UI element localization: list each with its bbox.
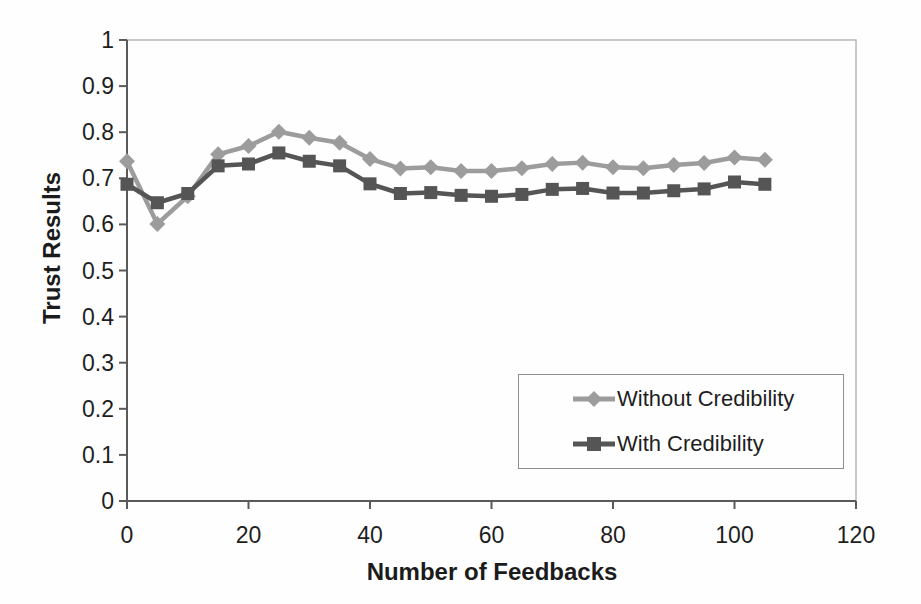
series-marker-with-credibility (758, 178, 771, 191)
legend-label-without-credibility: Without Credibility (617, 386, 794, 412)
series-group (119, 124, 773, 232)
series-marker-without-credibility (423, 159, 439, 175)
x-tick-label: 20 (236, 522, 262, 548)
x-tick-label: 60 (479, 522, 505, 548)
series-marker-without-credibility (727, 150, 743, 166)
series-marker-with-credibility (121, 178, 134, 191)
series-marker-without-credibility (484, 163, 500, 179)
legend-label-with-credibility: With Credibility (617, 431, 764, 457)
x-axis-title: Number of Feedbacks (292, 558, 692, 586)
y-tick-label: 0.4 (82, 304, 114, 330)
series-marker-with-credibility (303, 155, 316, 168)
tick-labels-group: 00.10.20.30.40.50.60.70.80.9102040608010… (82, 27, 875, 548)
series-marker-with-credibility (546, 183, 559, 196)
series-marker-without-credibility (453, 163, 469, 179)
series-marker-without-credibility (271, 124, 287, 140)
y-tick-label: 0.8 (82, 119, 114, 145)
y-tick-label: 0.2 (82, 396, 114, 422)
series-marker-with-credibility (515, 188, 528, 201)
series-marker-without-credibility (666, 157, 682, 173)
x-tick-label: 0 (121, 522, 134, 548)
legend-swatch-with-credibility-icon (573, 434, 615, 454)
series-marker-without-credibility (635, 160, 651, 176)
series-marker-with-credibility (637, 187, 650, 200)
series-marker-without-credibility (119, 153, 135, 169)
series-marker-without-credibility (392, 161, 408, 177)
series-marker-without-credibility (757, 152, 773, 168)
series-marker-with-credibility (364, 177, 377, 190)
x-tick-label: 40 (357, 522, 383, 548)
series-marker-with-credibility (455, 189, 468, 202)
series-marker-with-credibility (272, 146, 285, 159)
series-marker-with-credibility (576, 182, 589, 195)
series-marker-with-credibility (607, 187, 620, 200)
series-marker-without-credibility (301, 130, 317, 146)
series-marker-with-credibility (181, 187, 194, 200)
legend-row-without-credibility: Without Credibility (573, 382, 843, 416)
series-marker-without-credibility (696, 155, 712, 171)
series-marker-without-credibility (605, 159, 621, 175)
series-line-without-credibility (127, 132, 765, 224)
series-marker-without-credibility (514, 160, 530, 176)
y-tick-label: 0 (101, 488, 114, 514)
series-marker-with-credibility (667, 184, 680, 197)
y-tick-label: 0.5 (82, 258, 114, 284)
legend-swatch-without-credibility-icon (573, 389, 615, 409)
y-tick-label: 0.9 (82, 73, 114, 99)
series-marker-with-credibility (394, 187, 407, 200)
y-tick-label: 0.3 (82, 350, 114, 376)
series-marker-with-credibility (212, 159, 225, 172)
legend-row-with-credibility: With Credibility (573, 427, 843, 461)
x-tick-label: 120 (837, 522, 875, 548)
series-marker-with-credibility (151, 196, 164, 209)
y-tick-label: 0.6 (82, 211, 114, 237)
series-marker-without-credibility (332, 135, 348, 151)
trust-results-chart: 00.10.20.30.40.50.60.70.80.9102040608010… (0, 0, 921, 604)
series-marker-without-credibility (544, 156, 560, 172)
y-tick-label: 0.1 (82, 442, 114, 468)
series-marker-with-credibility (424, 186, 437, 199)
series-marker-without-credibility (575, 155, 591, 171)
series-marker-with-credibility (242, 158, 255, 171)
series-marker-with-credibility (698, 182, 711, 195)
x-tick-label: 80 (600, 522, 626, 548)
series-marker-with-credibility (728, 175, 741, 188)
y-tick-label: 1 (101, 27, 114, 53)
legend: Without Credibility With Credibility (518, 374, 844, 469)
series-marker-without-credibility (362, 151, 378, 167)
y-axis-title: Trust Results (38, 148, 66, 348)
figure-canvas: 00.10.20.30.40.50.60.70.80.9102040608010… (0, 0, 921, 604)
y-tick-label: 0.7 (82, 165, 114, 191)
x-tick-label: 100 (715, 522, 753, 548)
series-marker-with-credibility (333, 159, 346, 172)
series-marker-with-credibility (485, 190, 498, 203)
series-marker-without-credibility (241, 138, 257, 154)
